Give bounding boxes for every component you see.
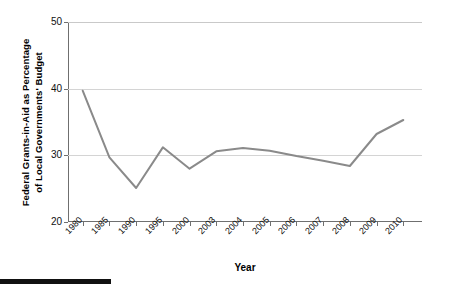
y-tick-label-50: 50 [36,17,62,27]
data-series-line [68,22,422,222]
y-tick-label-40: 40 [36,84,62,94]
plot-area: 20304050 1980198519901995200020032004200… [68,22,422,222]
scan-artifact-bar [0,279,111,284]
series-polyline [83,91,404,188]
y-axis-title-line-1: Federal Grants-in-Aid as Percentage [20,18,33,228]
x-tick-mark-2006 [296,222,297,226]
y-axis-title-line-2: of Local Governments' Budget [32,18,45,228]
x-axis-title: Year [68,262,422,273]
y-tick-label-20: 20 [36,217,62,227]
y-tick-label-30: 30 [36,150,62,160]
y-axis-title: Federal Grants-in-Aid as Percentage of L… [20,18,45,228]
chart-figure: Federal Grants-in-Aid as Percentage of L… [0,0,455,291]
